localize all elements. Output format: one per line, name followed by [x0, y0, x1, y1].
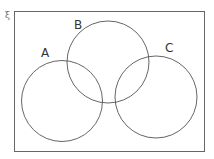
set-c-circle	[115, 56, 197, 138]
set-a-circle	[22, 61, 103, 142]
set-b-circle	[67, 21, 149, 103]
venn-diagram	[0, 0, 214, 159]
set-b-label: B	[74, 19, 82, 31]
universal-set-rectangle	[15, 12, 205, 152]
set-a-label: A	[41, 47, 49, 59]
set-c-label: C	[165, 42, 173, 54]
